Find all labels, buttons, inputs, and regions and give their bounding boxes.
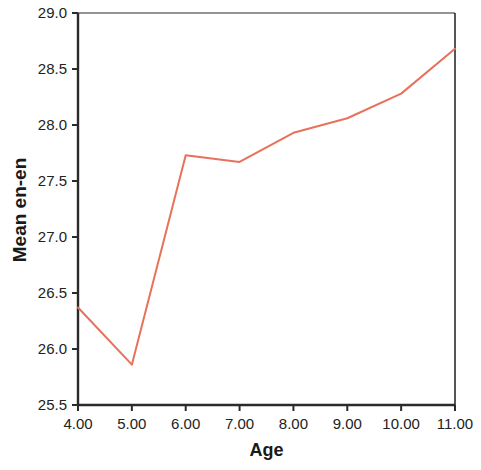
y-tick-label: 26.0 <box>38 340 67 357</box>
x-tick-label: 4.00 <box>63 415 92 432</box>
x-axis-tick-labels: 4.005.006.007.008.009.0010.0011.00 <box>63 415 473 432</box>
x-axis-title: Age <box>78 440 455 461</box>
x-tick-label: 7.00 <box>225 415 254 432</box>
y-tick-label: 28.5 <box>38 60 67 77</box>
y-tick-label: 29.0 <box>38 4 67 21</box>
y-tick-label: 26.5 <box>38 284 67 301</box>
x-tick-label: 5.00 <box>117 415 146 432</box>
y-axis-tick-labels: 29.028.528.027.527.026.526.025.5 <box>38 4 67 413</box>
chart-figure: Mean en-en 29.028.528.027.527.026.526.02… <box>0 0 481 470</box>
x-tick-label: 10.00 <box>382 415 420 432</box>
axes <box>78 13 455 405</box>
x-tick-label: 9.00 <box>333 415 362 432</box>
y-tick-label: 27.5 <box>38 172 67 189</box>
x-tick-label: 8.00 <box>279 415 308 432</box>
data-series <box>78 49 455 365</box>
tick-marks <box>72 13 455 411</box>
x-tick-label: 6.00 <box>171 415 200 432</box>
y-tick-label: 27.0 <box>38 228 67 245</box>
y-tick-label: 28.0 <box>38 116 67 133</box>
x-tick-label: 11.00 <box>437 415 473 432</box>
y-tick-label: 25.5 <box>38 396 67 413</box>
line-chart-plot: 29.028.528.027.527.026.526.025.5 4.005.0… <box>0 0 481 470</box>
series-line <box>78 49 455 365</box>
